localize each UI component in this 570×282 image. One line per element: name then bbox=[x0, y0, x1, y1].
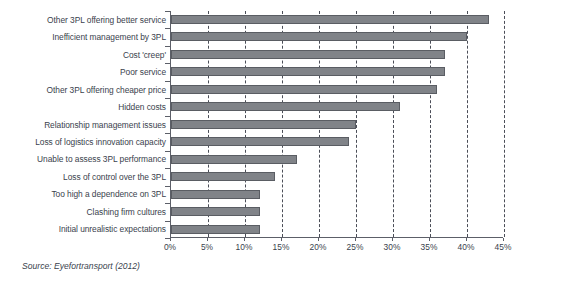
y-tick-mark bbox=[165, 221, 170, 222]
bar-row bbox=[171, 28, 503, 45]
bar-row bbox=[171, 46, 503, 63]
source-note: Source: Eyefortransport (2012) bbox=[22, 261, 140, 271]
x-axis-tick-label: 5% bbox=[187, 242, 227, 252]
x-axis-tick-label: 40% bbox=[446, 242, 486, 252]
bar-row bbox=[171, 63, 503, 80]
y-tick-mark bbox=[165, 203, 170, 204]
y-tick-mark bbox=[165, 168, 170, 169]
y-tick-mark bbox=[165, 151, 170, 152]
y-tick-mark bbox=[165, 11, 170, 12]
x-axis-tick-label: 30% bbox=[372, 242, 412, 252]
bar bbox=[171, 102, 400, 111]
x-axis-tick-label: 35% bbox=[409, 242, 449, 252]
y-axis-label: Loss of logistics innovation capacity bbox=[0, 137, 166, 147]
bar bbox=[171, 50, 445, 59]
bar-row bbox=[171, 186, 503, 203]
y-axis-label: Unable to assess 3PL performance bbox=[0, 154, 166, 164]
x-tick-mark bbox=[281, 238, 282, 241]
y-axis-label: Cost 'creep' bbox=[0, 50, 166, 60]
bar bbox=[171, 67, 445, 76]
bar-row bbox=[171, 81, 503, 98]
x-tick-mark bbox=[170, 238, 171, 241]
x-axis-tick-label: 0% bbox=[150, 242, 190, 252]
x-tick-mark bbox=[466, 238, 467, 241]
y-axis-label: Hidden costs bbox=[0, 102, 166, 112]
y-tick-mark bbox=[165, 81, 170, 82]
y-axis-label: Other 3PL offering cheaper price bbox=[0, 85, 166, 95]
bar bbox=[171, 155, 297, 164]
bar-row bbox=[171, 116, 503, 133]
y-axis-label: Initial unrealistic expectations bbox=[0, 224, 166, 234]
bar-row bbox=[171, 98, 503, 115]
x-tick-mark bbox=[429, 238, 430, 241]
bar-row bbox=[171, 221, 503, 238]
x-axis-tick-label: 45% bbox=[483, 242, 523, 252]
y-axis-label: Too high a dependence on 3PL bbox=[0, 189, 166, 199]
x-tick-mark bbox=[503, 238, 504, 241]
x-tick-mark bbox=[355, 238, 356, 241]
y-axis-category-labels: Other 3PL offering better serviceIneffic… bbox=[0, 11, 166, 238]
bar bbox=[171, 225, 260, 234]
bar-series bbox=[171, 11, 503, 237]
bar bbox=[171, 32, 467, 41]
bar-row bbox=[171, 168, 503, 185]
x-axis-tick-label: 25% bbox=[335, 242, 375, 252]
y-tick-mark bbox=[165, 46, 170, 47]
bar bbox=[171, 15, 489, 24]
y-tick-mark bbox=[165, 133, 170, 134]
x-tick-mark bbox=[318, 238, 319, 241]
gridline-45pct bbox=[504, 11, 505, 237]
y-tick-mark bbox=[165, 186, 170, 187]
x-axis-tick-label: 10% bbox=[224, 242, 264, 252]
bar bbox=[171, 172, 275, 181]
x-axis-tick-label: 15% bbox=[261, 242, 301, 252]
x-tick-mark bbox=[392, 238, 393, 241]
y-axis-label: Relationship management issues bbox=[0, 120, 166, 130]
bar bbox=[171, 85, 437, 94]
figure: Other 3PL offering better serviceIneffic… bbox=[0, 0, 570, 282]
bar bbox=[171, 190, 260, 199]
bar bbox=[171, 137, 349, 146]
bar bbox=[171, 207, 260, 216]
x-tick-mark bbox=[244, 238, 245, 241]
y-axis-label: Inefficient management by 3PL bbox=[0, 32, 166, 42]
y-axis-label: Other 3PL offering better service bbox=[0, 15, 166, 25]
y-tick-mark bbox=[165, 28, 170, 29]
plot-area bbox=[170, 11, 503, 238]
bar-row bbox=[171, 133, 503, 150]
bar-row bbox=[171, 151, 503, 168]
x-tick-mark bbox=[207, 238, 208, 241]
bar-row bbox=[171, 11, 503, 28]
bar-row bbox=[171, 203, 503, 220]
y-axis-label: Poor service bbox=[0, 67, 166, 77]
y-tick-mark bbox=[165, 63, 170, 64]
x-axis-tick-label: 20% bbox=[298, 242, 338, 252]
bar bbox=[171, 120, 356, 129]
bar-chart: Other 3PL offering better serviceIneffic… bbox=[0, 0, 570, 250]
y-tick-mark bbox=[165, 116, 170, 117]
x-axis: 0%5%10%15%20%25%30%35%40%45% bbox=[0, 238, 570, 254]
y-axis-label: Loss of control over the 3PL bbox=[0, 172, 166, 182]
y-tick-mark bbox=[165, 98, 170, 99]
y-axis-label: Clashing firm cultures bbox=[0, 207, 166, 217]
